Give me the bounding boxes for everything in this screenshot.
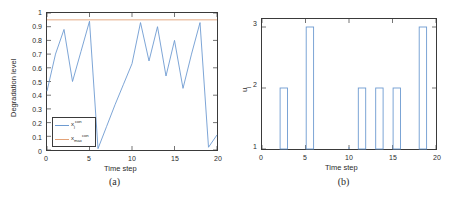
y-tick-label: 0.1 xyxy=(22,134,42,141)
legend-label-xmax: xmaxcon xyxy=(71,134,89,143)
bar xyxy=(358,88,365,149)
bar xyxy=(393,88,400,149)
panel-b: uj 3 2 1 0 5 10 15 20 Time step 5 0 1 2 xyxy=(229,0,458,202)
x-tick-label: 5 xyxy=(79,155,99,162)
legend-sup-con: con xyxy=(75,119,82,124)
y-tick-label: 2 xyxy=(243,81,257,88)
legend-label-xj: xjcon xyxy=(71,120,82,129)
x-tick-label: 20 xyxy=(208,155,228,162)
legend-sup-con2: con xyxy=(82,133,89,138)
bar xyxy=(306,27,313,149)
y-tick-label: 1 xyxy=(26,9,42,16)
panel-b-plot-area xyxy=(261,18,437,150)
panel-b-caption: (b) xyxy=(229,176,458,187)
bar xyxy=(376,88,383,149)
y-tick-label: 1 xyxy=(243,143,257,150)
x-tick-label: 20 xyxy=(427,154,447,161)
y-tick-label: 0.9 xyxy=(22,23,42,30)
bar xyxy=(419,27,426,149)
y-tick-label: 0.8 xyxy=(22,37,42,44)
figure-container: Degradation level 1 0.9 0.8 0.7 0.6 0.5 … xyxy=(0,0,458,202)
y-tick-label: 0.3 xyxy=(22,106,42,113)
x-tick-label: 0 xyxy=(36,155,56,162)
y-tick-label: 0.5 xyxy=(22,79,42,86)
y-tick-label: 3 xyxy=(243,20,257,27)
x-tick-label: 5 xyxy=(295,154,315,161)
legend-swatch-xj xyxy=(55,125,69,126)
y-tick-label: 0.6 xyxy=(22,65,42,72)
x-tick-label: 15 xyxy=(383,154,403,161)
panel-a-legend: xjcon xmaxcon xyxy=(52,117,96,147)
panel-a: Degradation level 1 0.9 0.8 0.7 0.6 0.5 … xyxy=(0,0,229,202)
legend-swatch-xmax xyxy=(55,139,69,140)
y-tick-label: 0.7 xyxy=(22,51,42,58)
panel-a-caption: (a) xyxy=(0,176,229,187)
x-axis-ticks-b xyxy=(262,19,436,149)
y-tick-label: 0.4 xyxy=(22,92,42,99)
x-tick-label: 10 xyxy=(339,154,359,161)
legend-entry-xj: xjcon xyxy=(55,119,95,132)
y-tick-label: 0.2 xyxy=(22,120,42,127)
x-tick-label: 10 xyxy=(122,155,142,162)
panel-b-y-axis-title-main: u xyxy=(240,88,249,92)
bar xyxy=(280,88,287,149)
legend-sub-max: max xyxy=(74,138,82,143)
bar-group xyxy=(280,27,426,149)
y-tick-label: 0 xyxy=(26,148,42,155)
panel-a-x-axis-title: Time step xyxy=(104,165,137,173)
y-axis-ticks-b xyxy=(262,27,436,149)
panel-a-y-axis-title: Degradation level xyxy=(10,59,18,117)
panel-b-svg xyxy=(262,19,436,149)
legend-sub-j: j xyxy=(74,124,75,129)
panel-b-x-axis-title: Time step xyxy=(325,164,358,172)
x-tick-label: 15 xyxy=(165,155,185,162)
x-tick-label: 0 xyxy=(251,154,271,161)
legend-entry-xmax: xmaxcon xyxy=(55,133,95,146)
